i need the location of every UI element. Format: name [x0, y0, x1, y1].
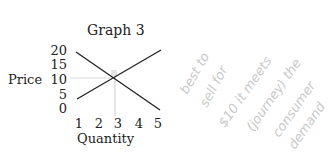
demand-line	[76, 52, 160, 110]
x-tick-2: 2	[93, 117, 105, 130]
supply-line	[77, 50, 161, 99]
x-tick-3: 3	[112, 117, 124, 130]
x-tick-4: 4	[133, 117, 145, 130]
handwritten-note: best to sell for $10 it meets (journey) …	[175, 0, 330, 156]
x-tick-5: 5	[152, 117, 164, 130]
intersection-highlight	[111, 70, 117, 76]
x-axis-label: Quantity	[77, 131, 134, 146]
x-tick-1: 1	[73, 117, 85, 130]
